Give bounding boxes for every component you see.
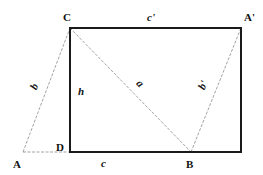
side-label-a: a <box>134 77 147 90</box>
geometry-diagram: C A' D A B c' b h a b' c <box>0 0 263 175</box>
side-label-h: h <box>78 85 84 97</box>
side-label-b: b <box>27 81 40 92</box>
vertex-label-A: A <box>13 158 21 170</box>
vertex-label-B: B <box>186 158 194 170</box>
vertex-label-A-prime: A' <box>244 11 255 23</box>
segment-CB <box>70 28 191 152</box>
segment-BA-prime <box>191 28 241 152</box>
vertex-label-C: C <box>63 11 71 23</box>
side-label-c-prime: c' <box>147 11 155 23</box>
side-label-b-prime: b' <box>195 78 209 91</box>
rectangle-CA'ED <box>70 28 241 152</box>
segment-AC <box>23 28 70 152</box>
vertex-label-D: D <box>56 141 64 153</box>
side-label-c: c <box>101 157 106 169</box>
